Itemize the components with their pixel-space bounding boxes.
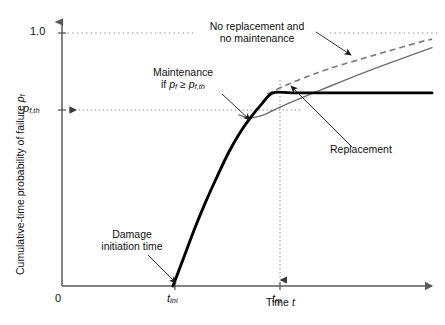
- annotation-replacement: Replacement: [330, 143, 392, 155]
- annotation-maintenance: Maintenance if pf ≥ pf,th: [137, 66, 229, 93]
- annotation-no-replacement-line2: no maintenance: [196, 32, 318, 44]
- x-axis-label-symbol: t: [292, 296, 295, 308]
- x-tick-label-tini: tini: [167, 292, 178, 305]
- leader-damage-initiation: [148, 255, 176, 283]
- figure-container: Cumulative-time probability of failure p…: [0, 0, 445, 325]
- leader-maintenance: [222, 94, 250, 120]
- annotation-damage-initiation-line2: initiation time: [86, 240, 178, 252]
- annotation-no-replacement: No replacement and no maintenance: [196, 20, 318, 44]
- annotation-damage-initiation-line1: Damage: [86, 228, 178, 240]
- chart-canvas: [0, 0, 445, 325]
- y-tick-label-one: 1.0: [30, 25, 45, 37]
- annotation-damage-initiation: Damage initiation time: [86, 228, 178, 252]
- annotation-maintenance-line1: Maintenance: [137, 66, 229, 78]
- y-axis-label-symbol-sub: f: [18, 94, 27, 96]
- annotation-no-replacement-line1: No replacement and: [196, 20, 318, 32]
- series-maintenance: [239, 48, 432, 118]
- series-replacement: [173, 92, 432, 286]
- leader-no-replacement: [316, 32, 351, 55]
- series-no-replacement-no-maintenance: [267, 39, 432, 94]
- annotation-maintenance-line2: if pf ≥ pf,th: [137, 78, 229, 93]
- x-tick-label-zero: 0: [55, 292, 61, 304]
- y-tick-label-threshold: pf,th: [23, 102, 40, 115]
- y-axis-label: Cumulative-time probability of failure p…: [14, 94, 27, 275]
- x-tick-label-trp: trp: [272, 292, 282, 305]
- leader-replacement: [291, 86, 352, 147]
